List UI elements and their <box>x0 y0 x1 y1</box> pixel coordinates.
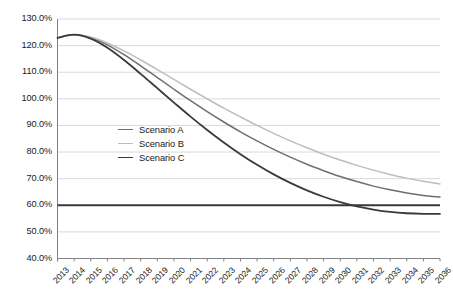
legend-item-scenario-a: Scenario A <box>118 122 184 136</box>
chart-legend: Scenario A Scenario B Scenario C <box>118 122 184 164</box>
legend-swatch-scenario-a <box>118 129 133 130</box>
legend-label-scenario-c: Scenario C <box>139 152 184 163</box>
legend-swatch-scenario-c <box>118 157 133 158</box>
legend-label-scenario-a: Scenario A <box>139 124 183 135</box>
legend-swatch-scenario-b <box>118 143 133 144</box>
legend-item-scenario-b: Scenario B <box>118 136 184 150</box>
legend-item-scenario-c: Scenario C <box>118 150 184 164</box>
legend-label-scenario-b: Scenario B <box>139 138 184 149</box>
